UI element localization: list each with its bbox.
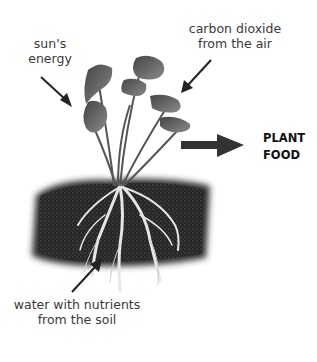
output-label-line2: FOOD: [263, 147, 305, 164]
water-label-line1: water with nutrients: [12, 297, 142, 312]
sun-label-line2: energy: [20, 51, 80, 66]
output-label-line1: PLANT: [263, 130, 305, 147]
water-nutrients-label: water with nutrients from the soil: [12, 297, 142, 327]
carbon-dioxide-label: carbon dioxide from the air: [175, 21, 295, 51]
plant-food-label: PLANT FOOD: [263, 130, 305, 164]
output-arrow: [181, 134, 244, 157]
sun-arrow: [41, 77, 72, 107]
co2-label-line1: carbon dioxide: [175, 21, 295, 36]
water-label-line2: from the soil: [12, 312, 142, 327]
sun-energy-label: sun's energy: [20, 36, 80, 66]
sun-label-line1: sun's: [20, 36, 80, 51]
co2-label-line2: from the air: [175, 36, 295, 51]
co2-arrow: [181, 60, 211, 93]
